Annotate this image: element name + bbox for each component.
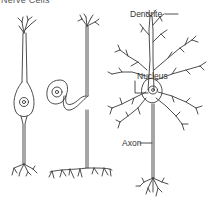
right-neuron [108,10,206,196]
left-neuron [12,16,37,176]
nerve-cells-diagram: Nerve Cells [0,0,214,208]
axon-label: Axon [122,139,141,148]
neuron-illustrations [0,0,214,208]
nucleus-label: Nucleus [137,72,168,81]
middle-neuron [47,14,112,178]
dendrite-label: Dendrite [130,10,162,19]
